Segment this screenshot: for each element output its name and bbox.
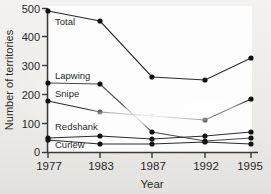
y-tick-label-200: 200	[22, 89, 40, 101]
y-axis-tick-labels: 0 100 200 300 400 500	[22, 3, 40, 159]
y-tick-label-0: 0	[34, 146, 40, 158]
x-tick-label-1977: 1977	[36, 160, 62, 172]
series-line-snipe	[48, 99, 251, 120]
y-axis-title: Number of territories	[3, 29, 15, 130]
x-tick-label-1995: 1995	[237, 160, 263, 172]
line-chart: 0 100 200 300 400 500 1977 1983 1987 199…	[0, 0, 271, 194]
x-tick-label-1992: 1992	[193, 160, 219, 172]
x-axis-tick-labels: 1977 1983 1987 1992 1995	[36, 160, 263, 172]
page-caption	[0, 185, 271, 194]
series-label-lapwing: Lapwing	[55, 70, 90, 81]
y-tick-label-500: 500	[22, 3, 40, 15]
y-tick-label-400: 400	[22, 31, 40, 43]
y-tick-label-100: 100	[22, 118, 40, 130]
x-tick-label-1987: 1987	[140, 160, 166, 172]
x-axis-ticks	[48, 153, 251, 159]
series-label-snipe: Snipe	[55, 88, 79, 99]
series-markers-snipe	[45, 96, 253, 122]
y-tick-label-300: 300	[22, 60, 40, 72]
series-label-total: Total	[55, 16, 75, 27]
series-label-redshank: Redshank	[55, 121, 98, 132]
series-line-redshank	[48, 132, 251, 139]
x-tick-label-1983: 1983	[88, 160, 114, 172]
y-axis-ticks	[42, 9, 48, 153]
series-label-curlew: Curlew	[55, 139, 85, 150]
